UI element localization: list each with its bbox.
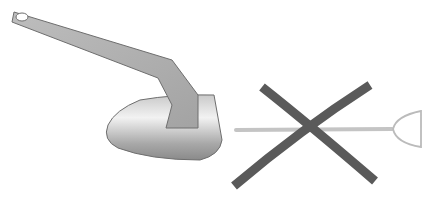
illustration-canvas bbox=[0, 0, 436, 202]
anchor-eye bbox=[16, 13, 28, 21]
plow-anchor-icon bbox=[12, 12, 222, 160]
anchor-shank bbox=[12, 12, 198, 128]
anchor-fluke bbox=[106, 95, 222, 160]
illustration-svg bbox=[0, 0, 436, 202]
cross-mark-icon bbox=[234, 85, 375, 186]
